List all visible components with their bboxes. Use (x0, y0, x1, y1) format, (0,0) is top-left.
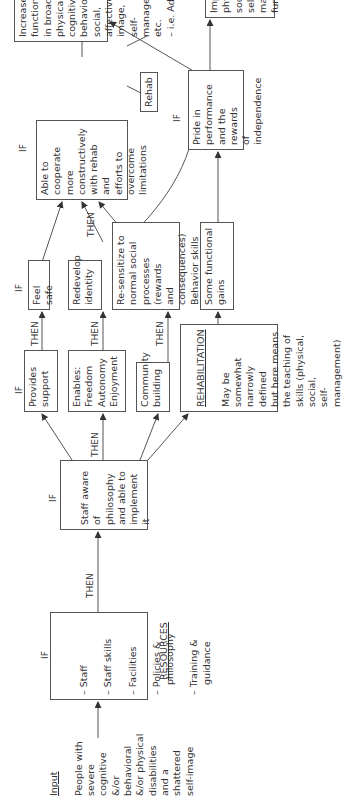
input-block: Input People with severe cognitive &/or … (36, 734, 208, 796)
resources-if-label: IF (40, 651, 50, 659)
resource-item: Staff skills (102, 617, 114, 695)
redevelop-identity-box: Redevelop identity (68, 260, 102, 310)
enables-box: Enables: Freedom Autonomy Enjoyment (68, 350, 126, 412)
resource-item: Facilities (127, 617, 139, 695)
staff-aware-if-label: IF (48, 494, 58, 502)
then-label: THEN (86, 212, 96, 237)
rehabilitation-text: May be somewhat narrowly defined but her… (220, 329, 343, 407)
then-label: THEN (30, 321, 40, 346)
resource-item: Staff (78, 617, 90, 695)
then-label: THEN (90, 321, 100, 346)
rehabilitation-box: REHABILITATION May be somewhat narrowly … (180, 324, 278, 412)
community-building-box: Community building (136, 362, 170, 412)
provides-if-label: IF (14, 386, 24, 394)
rehabilitation-heading: REHABILITATION (195, 329, 207, 407)
input-heading: Input (48, 734, 60, 796)
cooperate-if-label: IF (18, 144, 28, 152)
staff-aware-box: Staff aware of philosophy and able to im… (60, 460, 148, 530)
then-label: THEN (85, 573, 95, 598)
feel-safe-if-label: IF (14, 284, 24, 292)
resensitize-box: Re-sensitize to normal social processes … (112, 222, 180, 310)
rehab-small-box: Rehab (140, 72, 158, 112)
resources-caption: RESOURCES (158, 622, 170, 680)
then-label: THEN (90, 432, 100, 457)
cooperate-box: Able to cooperate more constructively wi… (36, 120, 128, 200)
improved-function-box: Improved physical, social and self- mana… (205, 0, 275, 18)
input-text: People with severe cognitive &/or behavi… (73, 734, 196, 796)
then-label: THEN (155, 321, 165, 346)
feel-safe-box: Feel safe (28, 260, 50, 310)
resource-item: Training & guidance (188, 617, 213, 695)
resources-box: Staff Staff skills Facilities Policies &… (50, 612, 148, 700)
pride-box: Pride in performance and the rewards of … (188, 70, 244, 150)
increased-function-box: Increased function in broad areas: physi… (14, 0, 108, 42)
provides-support-box: Provides support (24, 350, 58, 412)
functional-gains-box: Some functional gains (200, 222, 234, 310)
pride-if-label: IF (172, 114, 182, 122)
